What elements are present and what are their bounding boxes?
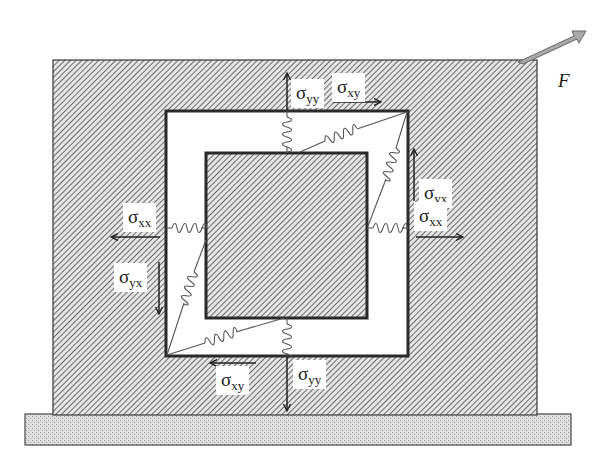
force-arrow — [518, 31, 586, 64]
diagram-canvas — [0, 0, 610, 476]
label-sigma-xx-left: σxx — [123, 203, 156, 232]
label-sigma-xx-right: σxx — [414, 202, 447, 231]
label-sigma-xy-bottom: σxy — [216, 366, 249, 395]
label-sigma-yy-bottom: σyy — [293, 360, 326, 389]
inner-square — [206, 153, 367, 318]
label-sigma-yy-top: σyy — [291, 79, 324, 108]
force-label: F — [558, 70, 570, 92]
stress-spring-diagram: σyy σxy σyx σxx σxx σyx σxy σyy F — [0, 0, 610, 476]
label-sigma-yx-left: σyx — [114, 263, 147, 292]
base-plate — [25, 414, 571, 445]
label-sigma-xy-top: σxy — [332, 73, 365, 102]
